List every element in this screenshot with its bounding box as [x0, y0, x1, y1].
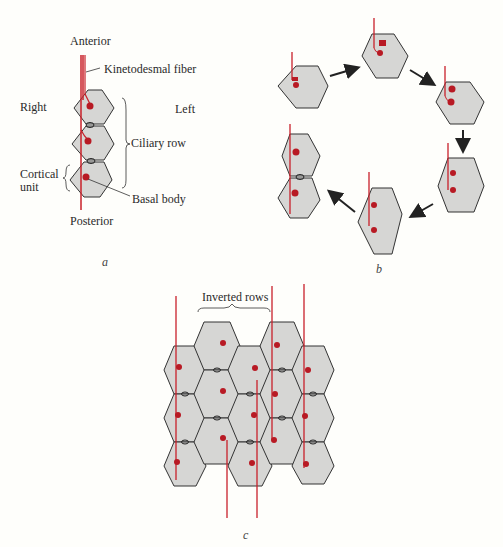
panel-a — [63, 55, 130, 210]
label-cortical: Cortical — [20, 167, 59, 181]
label-left: Left — [175, 102, 195, 117]
label-anterior: Anterior — [70, 34, 111, 49]
panel-b — [278, 18, 484, 254]
label-ciliary-row: Ciliary row — [131, 136, 186, 151]
label-cortical-unit: Cortical unit — [20, 168, 59, 194]
label-right: Right — [20, 100, 47, 115]
panel-c — [164, 322, 334, 486]
caption-b: b — [376, 262, 382, 277]
caption-c: c — [243, 528, 248, 543]
label-kinetodesmal-fiber: Kinetodesmal fiber — [104, 62, 196, 77]
label-basal-body: Basal body — [132, 192, 186, 207]
label-posterior: Posterior — [70, 214, 113, 229]
diagram-canvas — [0, 0, 503, 547]
label-unit: unit — [20, 180, 39, 194]
caption-a: a — [102, 255, 108, 270]
label-inverted-rows: Inverted rows — [202, 290, 268, 305]
